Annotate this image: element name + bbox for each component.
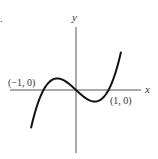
left-root-label: (−1, 0): [8, 77, 35, 89]
y-axis-label: y: [71, 11, 77, 23]
right-root-label: (1, 0): [110, 95, 132, 107]
figure-marker: .: [0, 13, 3, 24]
cubic-graph: . x y (−1, 0) (1, 0): [0, 0, 158, 159]
x-axis-label: x: [144, 83, 150, 95]
